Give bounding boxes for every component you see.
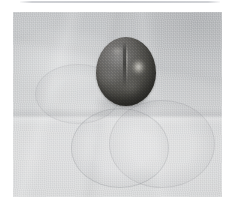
page-canvas bbox=[0, 0, 238, 206]
dark-round-fruit bbox=[96, 37, 156, 106]
cloth-impression-ring-lower-right bbox=[109, 100, 215, 188]
fruit-rim-shading bbox=[96, 37, 156, 106]
top-divider-rule bbox=[20, 1, 220, 3]
photograph bbox=[13, 12, 222, 197]
